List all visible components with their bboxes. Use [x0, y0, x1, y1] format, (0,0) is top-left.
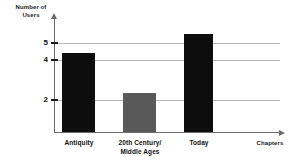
x-category-label-today: Today	[175, 138, 223, 147]
bar-20th-century-middle-ages	[123, 93, 156, 132]
y-axis-line	[54, 18, 55, 133]
bar-antiquity	[62, 53, 95, 132]
x-axis-line	[54, 132, 280, 133]
x-category-label-line1: 20th Century/	[106, 138, 174, 147]
tickmark-4	[51, 59, 58, 61]
y-axis-title: Number of Users	[8, 4, 54, 19]
x-category-label-line2: Middle Ages	[106, 147, 174, 156]
x-category-label-antiquity: Antiquity	[52, 138, 106, 147]
tickmark-5	[51, 42, 58, 44]
bar-today	[184, 34, 213, 132]
x-axis-title: Chapters	[248, 140, 292, 148]
x-category-label-20th-century-middle-ages: 20th Century/ Middle Ages	[106, 138, 174, 156]
tickmark-2	[51, 99, 58, 101]
y-tick-label-5: 5	[36, 38, 48, 47]
x-axis-arrow-icon	[279, 130, 285, 136]
y-tick-label-2: 2	[36, 95, 48, 104]
y-axis-title-line2: Users	[8, 12, 54, 20]
y-tick-label-4: 4	[36, 55, 48, 64]
bar-chart: Number of Users 5 4 2 Antiquity 20th Cen…	[0, 0, 296, 167]
gridline-5	[54, 43, 280, 44]
y-axis-title-line1: Number of	[8, 4, 54, 12]
